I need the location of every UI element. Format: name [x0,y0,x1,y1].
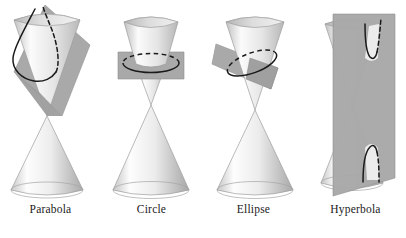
panel-circle: Circle [101,0,202,238]
lower-nappe [217,110,293,199]
caption-hyperbola: Hyperbola [305,203,406,216]
conic-sections-figure: Parabola [0,0,406,238]
caption-ellipse: Ellipse [203,203,304,216]
panel-parabola: Parabola [0,0,101,238]
panel-ellipse: Ellipse [203,0,304,238]
circle-diagram [101,0,202,200]
ellipse-diagram [203,0,304,200]
caption-circle: Circle [101,203,202,216]
panel-hyperbola: Hyperbola [305,0,406,238]
lower-nappe [11,116,83,198]
lower-nappe [113,105,189,199]
caption-parabola: Parabola [0,203,101,216]
parabola-diagram [0,0,101,200]
hyperbola-diagram [305,0,406,210]
